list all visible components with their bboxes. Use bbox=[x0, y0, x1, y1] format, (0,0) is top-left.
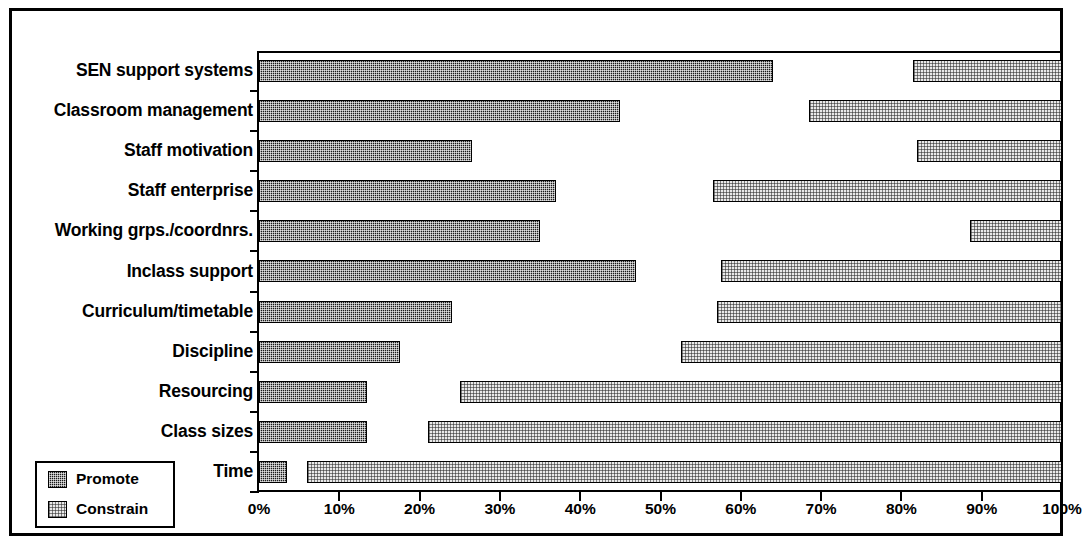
y-axis-tick bbox=[250, 491, 259, 493]
bar-group bbox=[259, 292, 1062, 332]
bar-group bbox=[259, 51, 1062, 91]
x-axis-tick-label: 30% bbox=[470, 500, 530, 518]
y-axis-tick bbox=[250, 411, 259, 413]
bar-group bbox=[259, 131, 1062, 171]
category-label: Inclass support bbox=[21, 261, 253, 282]
chart-legend: Promote Constrain bbox=[35, 461, 175, 528]
bar-constrain bbox=[713, 180, 1062, 202]
y-axis-tick bbox=[250, 170, 259, 172]
y-axis-tick bbox=[250, 250, 259, 252]
bar-constrain bbox=[428, 421, 1062, 443]
bar-constrain bbox=[721, 260, 1062, 282]
bar-constrain bbox=[460, 381, 1062, 403]
category-label: Curriculum/timetable bbox=[21, 301, 253, 322]
chart-frame: SEN support systemsClassroom managementS… bbox=[9, 8, 1063, 536]
y-axis-tick bbox=[250, 331, 259, 333]
x-axis-tick-label: 10% bbox=[309, 500, 369, 518]
legend-item-promote: Promote bbox=[48, 468, 139, 490]
bar-promote bbox=[259, 140, 472, 162]
bar-promote bbox=[259, 60, 773, 82]
bar-promote bbox=[259, 341, 400, 363]
bar-promote bbox=[259, 421, 367, 443]
bar-group bbox=[259, 452, 1062, 492]
y-axis-tick bbox=[250, 371, 259, 373]
x-axis-tick-label: 50% bbox=[631, 500, 691, 518]
bar-constrain bbox=[917, 140, 1062, 162]
legend-label-constrain: Constrain bbox=[76, 500, 148, 518]
bar-group bbox=[259, 171, 1062, 211]
bar-promote bbox=[259, 100, 620, 122]
category-label: Working grps./coordnrs. bbox=[21, 220, 253, 241]
bar-promote bbox=[259, 180, 556, 202]
x-axis-tick-label: 80% bbox=[871, 500, 931, 518]
legend-label-promote: Promote bbox=[76, 470, 139, 488]
bar-group bbox=[259, 332, 1062, 372]
bar-group bbox=[259, 412, 1062, 452]
bar-promote bbox=[259, 220, 540, 242]
y-axis-tick bbox=[250, 291, 259, 293]
legend-swatch-promote bbox=[48, 471, 67, 488]
y-axis-tick bbox=[250, 130, 259, 132]
category-label: Class sizes bbox=[21, 421, 253, 442]
x-axis-tick-label: 0% bbox=[229, 500, 289, 518]
bar-group bbox=[259, 91, 1062, 131]
bar-group bbox=[259, 251, 1062, 291]
y-axis-tick bbox=[250, 451, 259, 453]
bar-constrain bbox=[681, 341, 1062, 363]
legend-swatch-constrain bbox=[48, 501, 67, 518]
y-axis-tick bbox=[250, 210, 259, 212]
bar-promote bbox=[259, 260, 636, 282]
bar-constrain bbox=[307, 461, 1062, 483]
bar-group bbox=[259, 211, 1062, 251]
category-label: Staff enterprise bbox=[21, 180, 253, 201]
bar-promote bbox=[259, 301, 452, 323]
category-label: Staff motivation bbox=[21, 140, 253, 161]
category-label: SEN support systems bbox=[21, 60, 253, 81]
bar-group bbox=[259, 372, 1062, 412]
bar-promote bbox=[259, 461, 287, 483]
x-axis-tick-label: 90% bbox=[952, 500, 1012, 518]
bar-constrain bbox=[717, 301, 1062, 323]
bar-promote bbox=[259, 381, 367, 403]
x-axis-tick-label: 60% bbox=[711, 500, 771, 518]
x-axis-tick-label: 100% bbox=[1032, 500, 1086, 518]
x-axis-tick-label: 40% bbox=[550, 500, 610, 518]
plot-area bbox=[259, 51, 1062, 492]
bar-constrain bbox=[970, 220, 1062, 242]
x-axis-tick-label: 20% bbox=[390, 500, 450, 518]
y-axis-tick bbox=[250, 90, 259, 92]
x-axis-tick-label: 70% bbox=[791, 500, 851, 518]
bar-constrain bbox=[809, 100, 1062, 122]
bar-constrain bbox=[913, 60, 1062, 82]
category-label: Resourcing bbox=[21, 381, 253, 402]
category-label: Discipline bbox=[21, 341, 253, 362]
category-label: Classroom management bbox=[21, 100, 253, 121]
legend-item-constrain: Constrain bbox=[48, 498, 148, 520]
category-axis-labels: SEN support systemsClassroom managementS… bbox=[18, 51, 253, 492]
